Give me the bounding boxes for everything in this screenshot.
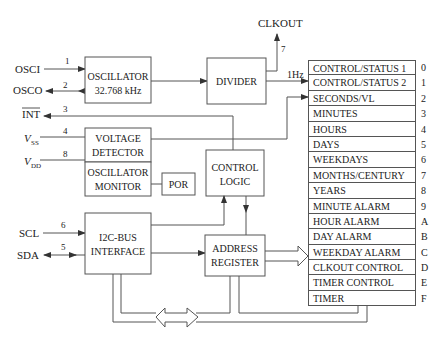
arrow-icon	[78, 88, 85, 94]
register-row: HOURS4	[308, 122, 438, 137]
register-name: TIMER	[308, 291, 416, 306]
register-row: YEARS8	[308, 183, 438, 198]
register-name: CONTROL/STATUS 1	[308, 60, 416, 75]
register-address: 0	[421, 60, 426, 75]
register-name: WEEKDAY ALARM	[308, 245, 416, 260]
bus-arrow-icon	[265, 246, 308, 266]
register-name: WEEKDAYS	[308, 152, 416, 167]
pin-number: 4	[63, 126, 68, 136]
pin-number: 6	[61, 220, 66, 230]
register-address: 6	[421, 152, 426, 167]
register-row: DAYS5	[308, 137, 438, 152]
block-oscillator-monitor: OSCILLATOR MONITOR	[85, 162, 151, 196]
register-name: MINUTE ALARM	[308, 199, 416, 214]
register-row: CONTROL/STATUS 10	[308, 60, 438, 75]
block-label: DIVIDER	[216, 76, 257, 87]
pin-label: OSCI	[15, 63, 40, 75]
register-address: 9	[421, 199, 426, 214]
register-address: 7	[421, 168, 426, 183]
block-control-logic: CONTROL LOGIC	[206, 150, 264, 196]
pin-subscript: SS	[31, 139, 39, 147]
register-address: 2	[421, 91, 426, 106]
block-label: INTERFACE	[91, 246, 145, 257]
register-row: WEEKDAY ALARMC	[308, 245, 438, 260]
register-address: C	[421, 245, 428, 260]
wire	[113, 274, 156, 322]
register-address: 5	[421, 137, 426, 152]
block-i2c-interface: I2C-BUS INTERFACE	[85, 213, 151, 274]
block-label: MONITOR	[95, 181, 142, 192]
register-row: TIMERF	[308, 291, 438, 306]
register-name: CLKOUT CONTROL	[308, 260, 416, 275]
block-label: 32.768 kHz	[95, 85, 142, 96]
pin-number: 5	[61, 242, 66, 252]
register-name: TIMER CONTROL	[308, 275, 416, 290]
block-label: POR	[169, 179, 189, 190]
register-address: 4	[421, 122, 426, 137]
block-label: CONTROL	[211, 162, 258, 173]
register-row: CLKOUT CONTROLD	[308, 260, 438, 275]
wire	[196, 306, 367, 322]
pin-number: 2	[63, 80, 68, 90]
register-name: YEARS	[308, 183, 416, 198]
pin-vss: V SS 4	[24, 126, 85, 147]
register-row: MINUTE ALARM9	[308, 199, 438, 214]
register-address: E	[421, 275, 427, 290]
pin-number: 8	[63, 149, 68, 159]
register-row: CONTROL/STATUS 21	[308, 75, 438, 90]
register-row: SECONDS/VL2	[308, 91, 438, 106]
block-oscillator: OSCILLATOR 32.768 kHz	[85, 57, 151, 103]
pin-number: 7	[281, 44, 286, 54]
pin-scl: SCL 6	[19, 220, 85, 239]
block-address-register: ADDRESS REGISTER	[205, 235, 265, 276]
register-row: TIMER CONTROLE	[308, 275, 438, 290]
pin-vdd: V DD 8	[24, 149, 85, 170]
register-name: DAY ALARM	[308, 229, 416, 244]
register-name: MONTHS/CENTURY	[308, 168, 416, 183]
register-name: DAYS	[308, 137, 416, 152]
register-row: MINUTES3	[308, 106, 438, 121]
register-table: CONTROL/STATUS 10CONTROL/STATUS 21SECOND…	[308, 60, 438, 306]
pin-osci: OSCI 1	[15, 56, 85, 75]
block-label: ADDRESS	[212, 243, 258, 254]
register-address: 8	[421, 183, 426, 198]
register-address: 1	[421, 75, 426, 90]
block-label: I2C-BUS	[99, 232, 137, 243]
bidirectional-bus-icon	[156, 308, 198, 327]
register-row: DAY ALARMB	[308, 229, 438, 244]
rtc-block-diagram: OSCI 1 OSCO 2 INT 3 V SS 4 V DD 8 SCL 6 …	[0, 0, 439, 344]
arrow-icon	[151, 196, 224, 225]
register-name: HOURS	[308, 122, 416, 137]
register-address: A	[421, 214, 428, 229]
register-name: SECONDS/VL	[308, 91, 416, 106]
block-label: OSCILLATOR	[88, 167, 149, 178]
pin-label: INT	[22, 108, 41, 120]
register-address: F	[421, 291, 427, 306]
block-label: DETECTOR	[92, 147, 144, 158]
block-label: OSCILLATOR	[88, 71, 149, 82]
register-row: WEEKDAYS6	[308, 152, 438, 167]
register-name: HOUR ALARM	[308, 214, 416, 229]
register-address: B	[421, 229, 428, 244]
pin-osco: OSCO 2	[13, 80, 85, 96]
pin-number: 1	[65, 56, 70, 66]
wire	[196, 276, 230, 313]
arrow-icon	[243, 205, 249, 213]
block-label: LOGIC	[220, 176, 251, 187]
wire	[121, 274, 156, 313]
register-name: MINUTES	[308, 106, 416, 121]
register-address: 3	[421, 106, 426, 121]
pin-label: SCL	[19, 227, 39, 239]
block-label: VOLTAGE	[95, 133, 141, 144]
pin-clkout-label: CLKOUT	[258, 17, 303, 29]
pin-label: OSCO	[13, 84, 42, 96]
register-name: CONTROL/STATUS 2	[308, 75, 416, 90]
pin-label: SDA	[17, 249, 39, 261]
register-address: D	[421, 260, 428, 275]
register-row: HOUR ALARMA	[308, 214, 438, 229]
block-label: REGISTER	[211, 257, 259, 268]
block-divider: DIVIDER	[207, 58, 266, 104]
block-voltage-detector: VOLTAGE DETECTOR	[85, 128, 151, 162]
signal-label: 1Hz	[287, 69, 304, 80]
arrow-icon	[266, 34, 277, 71]
